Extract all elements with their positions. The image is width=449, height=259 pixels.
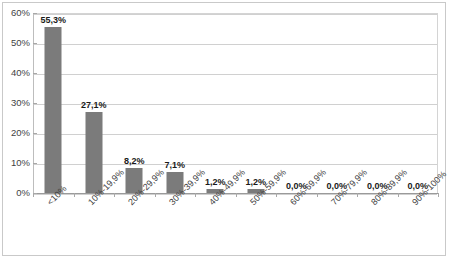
y-axis-tick [33,103,37,104]
bar[interactable] [45,27,62,193]
bar-slot [33,13,74,193]
bar-value-label: 55,3% [40,15,66,25]
x-axis-tick [33,193,34,197]
bar-value-label: 7,1% [164,160,185,170]
y-axis-tick [33,133,37,134]
x-axis-tick [357,193,358,197]
x-axis-tick [74,193,75,197]
x-axis-tick [155,193,156,197]
bar-slot [317,13,358,193]
bar-slot [195,13,236,193]
y-axis-tick-label: 50% [2,38,30,48]
y-axis-tick [33,73,37,74]
x-axis-tick [276,193,277,197]
y-axis-tick [33,43,37,44]
x-axis-tick [195,193,196,197]
bar-value-label: 8,2% [124,156,145,166]
x-axis-tick [317,193,318,197]
bar[interactable] [85,112,102,193]
y-axis-tick-label: 10% [2,158,30,168]
y-axis-tick [33,163,37,164]
y-axis-tick-label: 60% [2,8,30,18]
x-axis-tick [438,193,439,197]
x-axis-tick [236,193,237,197]
bar-value-label: 27,1% [81,100,107,110]
y-axis-tick-label: 30% [2,98,30,108]
x-axis-tick [398,193,399,197]
bar-slot [357,13,398,193]
y-axis: 0%10%20%30%40%50%60% [0,0,30,259]
bar-slot [276,13,317,193]
y-axis-tick-label: 40% [2,68,30,78]
bar-chart: 0%10%20%30%40%50%60% 55,3%27,1%8,2%7,1%1… [0,0,449,259]
x-axis-tick [114,193,115,197]
bar-slot [236,13,277,193]
y-axis-tick-label: 20% [2,128,30,138]
y-axis-tick [33,13,37,14]
y-axis-tick-label: 0% [2,188,30,198]
bar-slot [398,13,439,193]
